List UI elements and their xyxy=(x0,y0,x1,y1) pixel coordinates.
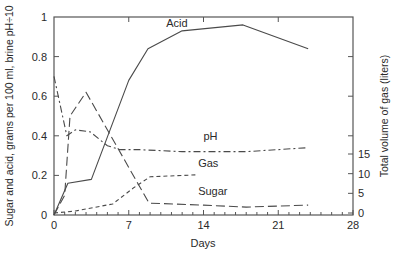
y-tick-label: 0.8 xyxy=(32,51,47,63)
series-ph-line xyxy=(54,76,308,151)
y2-tick-label: 10 xyxy=(358,168,370,180)
x-tick-label: 28 xyxy=(347,219,359,231)
x-tick-label: 0 xyxy=(51,219,57,231)
axes: 0714212800.20.40.60.81051015 xyxy=(32,11,371,231)
y-tick-label: 0 xyxy=(41,209,47,221)
y2-tick-label: 15 xyxy=(358,148,370,160)
labels-group: AcidpHGasSugar xyxy=(166,17,228,197)
x-tick-label: 14 xyxy=(197,219,209,231)
series-acid-line xyxy=(54,25,308,215)
annotation-gas: Gas xyxy=(198,157,219,169)
y-tick-label: 0.6 xyxy=(32,90,47,102)
y-tick-label: 0.4 xyxy=(32,130,47,142)
series-sugar-line xyxy=(54,92,308,215)
y-tick-label: 1 xyxy=(41,11,47,23)
x-tick-label: 7 xyxy=(126,219,132,231)
chart-svg: 0714212800.20.40.60.81051015 AcidpHGasSu… xyxy=(0,0,402,262)
annotation-ph: pH xyxy=(204,130,218,142)
y2-tick-label: 0 xyxy=(358,207,364,219)
y-axis-label: Sugar and acid, grams per 100 ml, brine … xyxy=(3,5,15,226)
y2-axis-label: Total volume of gas (liters) xyxy=(378,55,390,178)
y-tick-label: 0.2 xyxy=(32,169,47,181)
x-tick-label: 21 xyxy=(272,219,284,231)
chart: 0714212800.20.40.60.81051015 AcidpHGasSu… xyxy=(0,0,402,262)
series-gas-line xyxy=(54,175,196,213)
annotation-sugar: Sugar xyxy=(198,185,228,197)
annotation-acid: Acid xyxy=(166,17,187,29)
x-axis-label: Days xyxy=(190,237,216,249)
series-group xyxy=(54,25,308,215)
y2-tick-label: 5 xyxy=(358,187,364,199)
